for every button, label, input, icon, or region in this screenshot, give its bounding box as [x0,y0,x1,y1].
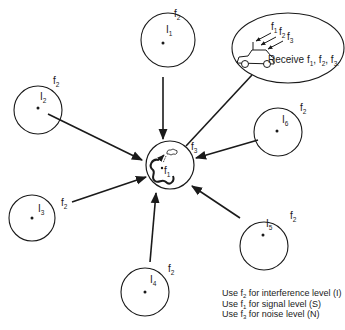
svg-text:f2: f2 [174,8,181,21]
center-cell: f1 f3 [146,141,198,189]
svg-text:I2: I2 [40,91,47,104]
interferer-i6: I6 f2 [196,102,307,158]
svg-text:f2: f2 [168,263,175,276]
svg-text:f1: f1 [271,21,278,34]
svg-text:f2: f2 [53,75,60,88]
svg-text:I4: I4 [150,274,157,287]
center-f3-label: f3 [191,141,198,154]
receive-caption: Receive f1, f2, f3. [268,54,339,67]
interferer-i3: I3 f2 [9,177,146,241]
svg-text:I6: I6 [282,114,289,127]
svg-text:I1: I1 [166,24,173,37]
interferer-i5: I5 f2 [192,186,297,270]
legend-row: Use f3 for noise level (N) [222,309,341,320]
interferer-i1: I1 f2 [141,8,195,139]
svg-text:f2: f2 [290,210,297,223]
legend-row: Use f1 for signal level (S) [222,299,341,310]
svg-text:I5: I5 [266,218,273,231]
legend: Use f2 for interference level (I) Use f1… [222,288,341,320]
svg-text:f3: f3 [287,31,294,44]
legend-row: Use f2 for interference level (I) [222,288,341,299]
svg-text:f2: f2 [61,197,68,210]
center-f1-label: f1 [164,165,171,178]
interferer-i2: I2 f2 [14,75,142,160]
interferer-i4: I4 f2 [121,193,175,316]
cloud-icon [167,149,178,155]
receiver-vehicle: f1 f2 f3 Receive f1, f2, f3. [186,13,344,146]
svg-text:I3: I3 [38,203,45,216]
interference-diagram: f1 f3 I1 f2 f1 f2 f3 Receive f1, f2, f3.… [0,0,345,330]
svg-text:f2: f2 [300,102,307,115]
svg-text:f2: f2 [279,26,286,39]
